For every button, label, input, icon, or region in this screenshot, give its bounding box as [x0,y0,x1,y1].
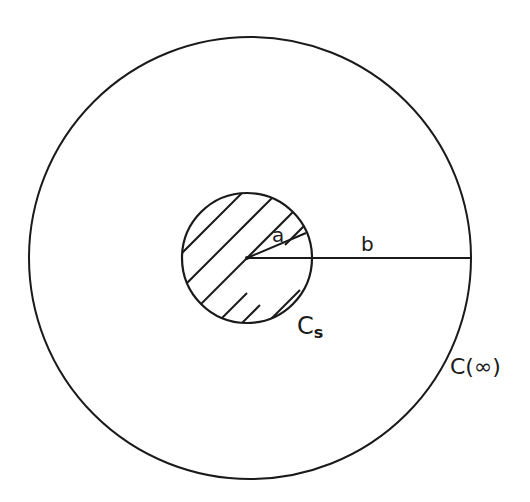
label-b: b [361,232,374,256]
center-point [245,256,249,260]
label-c-infinity: C(∞) [450,354,501,379]
label-cs: Cs [297,312,323,342]
label-a: a [272,223,284,247]
diagram-canvas: a b Cs C(∞) [0,0,530,502]
